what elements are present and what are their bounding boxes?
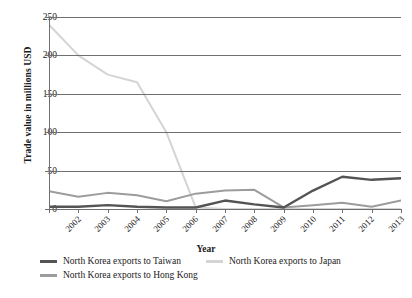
legend-swatch-icon xyxy=(206,260,223,263)
x-tick-label-2004: 2004 xyxy=(122,214,142,234)
y-axis-line xyxy=(49,17,50,209)
x-tick-label-2006: 2006 xyxy=(181,214,201,234)
x-tick-2011 xyxy=(313,209,314,213)
x-tick-label-2013: 2013 xyxy=(386,214,406,234)
x-tick-2004 xyxy=(108,209,109,213)
x-tick-label-2008: 2008 xyxy=(239,214,259,234)
gridline-100 xyxy=(49,132,401,133)
x-tick-2012 xyxy=(342,209,343,213)
series-line-north-korea-exports-to-japan xyxy=(49,25,401,209)
x-tick-label-2005: 2005 xyxy=(151,214,171,234)
x-tick-label-2002: 2002 xyxy=(63,214,83,234)
x-tick-label-2007: 2007 xyxy=(210,214,230,234)
x-tick-2006 xyxy=(166,209,167,213)
x-tick-2005 xyxy=(137,209,138,213)
x-tick-label-2010: 2010 xyxy=(298,214,318,234)
legend-swatch-icon xyxy=(40,260,57,263)
x-tick-label-2003: 2003 xyxy=(93,214,113,234)
x-tick-2009 xyxy=(254,209,255,213)
x-tick-label-2011: 2011 xyxy=(327,214,347,234)
legend-item[interactable]: North Korea exports to Hong Kong xyxy=(40,270,192,280)
gridline-250 xyxy=(49,17,401,18)
x-tick-2014 xyxy=(401,209,402,213)
x-tick-2003 xyxy=(78,209,79,213)
legend-label: North Korea exports to Taiwan xyxy=(63,256,181,266)
legend-swatch-icon xyxy=(40,274,57,277)
x-tick-2002 xyxy=(49,209,50,213)
x-tick-2010 xyxy=(284,209,285,213)
legend-label: North Korea exports to Hong Kong xyxy=(63,270,198,280)
gridline-150 xyxy=(49,94,401,95)
x-tick-2008 xyxy=(225,209,226,213)
gridline-200 xyxy=(49,55,401,56)
legend-label: North Korea exports to Japan xyxy=(229,256,341,266)
series-lines xyxy=(49,17,401,209)
legend-item[interactable]: North Korea exports to Taiwan xyxy=(40,256,192,266)
plot-area xyxy=(49,17,401,209)
x-tick-label-2012: 2012 xyxy=(357,214,377,234)
chart-legend: North Korea exports to TaiwanNorth Korea… xyxy=(40,256,400,280)
chart-figure: Trade value in millions USD 050100150200… xyxy=(0,0,412,298)
x-tick-2007 xyxy=(196,209,197,213)
x-tick-label-2009: 2009 xyxy=(269,214,289,234)
legend-item[interactable]: North Korea exports to Japan xyxy=(206,256,400,266)
gridline-50 xyxy=(49,171,401,172)
x-axis-title: Year xyxy=(0,244,412,254)
x-tick-2013 xyxy=(372,209,373,213)
